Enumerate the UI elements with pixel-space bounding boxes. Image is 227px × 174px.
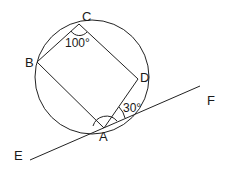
label-f: F xyxy=(207,93,215,108)
label-c: C xyxy=(82,9,91,24)
segment-cd xyxy=(79,24,138,79)
angle-label-bcd: 100° xyxy=(65,36,90,50)
label-a: A xyxy=(99,129,108,144)
angle-arc-c xyxy=(71,31,87,36)
geometry-diagram: C B D A E F 100° 30° xyxy=(0,0,227,174)
angle-label-daf: 30° xyxy=(123,101,141,115)
segment-ab xyxy=(37,62,104,128)
label-e: E xyxy=(14,148,23,163)
label-d: D xyxy=(140,70,149,85)
label-b: B xyxy=(25,55,34,70)
tangent-line-ef xyxy=(30,86,200,160)
